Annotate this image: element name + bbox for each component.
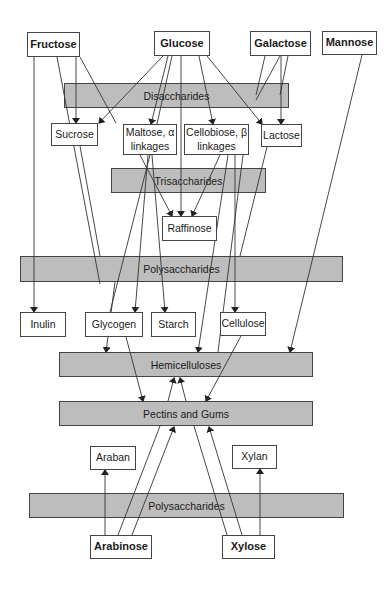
hemicelluloses-label: Hemicelluloses: [151, 359, 222, 371]
sucrose-label: Sucrose: [55, 128, 94, 141]
araban-node: Araban: [90, 446, 136, 470]
maltose-node: Maltose, α linkages: [123, 124, 177, 155]
raffinose-label: Raffinose: [167, 222, 211, 235]
sucrose-node: Sucrose: [51, 123, 98, 146]
cellulose-node: Cellulose: [220, 312, 266, 336]
mannose-label: Mannose: [326, 36, 374, 50]
galactose-label: Galactose: [254, 37, 307, 51]
cellobiose-node: Cellobiose, β linkages: [184, 124, 249, 155]
inulin-label: Inulin: [30, 318, 55, 331]
cellobiose-label: Cellobiose, β linkages: [186, 126, 247, 152]
polysaccharides-bottom-band: Polysaccharides: [29, 493, 344, 518]
pectins-gums-label: Pectins and Gums: [143, 408, 229, 420]
xylan-node: Xylan: [232, 445, 277, 469]
glycogen-node: Glycogen: [85, 312, 143, 337]
polysaccharides-top-label: Polysaccharides: [143, 263, 219, 275]
starch-label: Starch: [158, 318, 188, 331]
araban-label: Araban: [96, 451, 130, 464]
glucose-node: Glucose: [154, 31, 210, 56]
xylose-node: Xylose: [222, 535, 275, 559]
maltose-label: Maltose, α linkages: [126, 126, 175, 152]
pectins-gums-band: Pectins and Gums: [59, 401, 313, 426]
fructose-node: Fructose: [27, 32, 80, 57]
fructose-label: Fructose: [30, 38, 76, 52]
starch-node: Starch: [151, 312, 196, 337]
trisaccharides-label: Trisaccharides: [155, 175, 223, 187]
cellulose-label: Cellulose: [221, 317, 264, 330]
mannose-node: Mannose: [322, 31, 377, 55]
polysaccharides-bottom-label: Polysaccharides: [148, 500, 224, 512]
glycogen-label: Glycogen: [92, 318, 136, 331]
trisaccharides-band: Trisaccharides: [111, 168, 266, 193]
lactose-node: Lactose: [261, 124, 302, 147]
xylose-label: Xylose: [231, 540, 266, 554]
arabinose-node: Arabinose: [90, 535, 152, 559]
lactose-label: Lactose: [263, 129, 300, 142]
disaccharides-label: Disaccharides: [144, 90, 210, 102]
disaccharides-band: Disaccharides: [64, 83, 289, 108]
polysaccharides-top-band: Polysaccharides: [20, 256, 343, 282]
galactose-node: Galactose: [250, 31, 311, 56]
glucose-label: Glucose: [160, 37, 203, 51]
raffinose-node: Raffinose: [162, 216, 217, 241]
hemicelluloses-band: Hemicelluloses: [59, 352, 313, 377]
inulin-node: Inulin: [20, 312, 66, 337]
arabinose-label: Arabinose: [94, 540, 148, 554]
xylan-label: Xylan: [241, 450, 267, 463]
